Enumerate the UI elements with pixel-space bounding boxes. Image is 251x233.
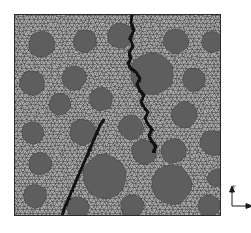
mesoscale-mesh-figure: y x <box>0 0 251 233</box>
axis-label-x: x <box>247 203 250 210</box>
axis-label-y: y <box>233 183 236 190</box>
mesh-svg <box>14 14 221 216</box>
coordinate-axis-indicator: y x <box>224 184 251 214</box>
mesh-panel <box>14 14 221 216</box>
